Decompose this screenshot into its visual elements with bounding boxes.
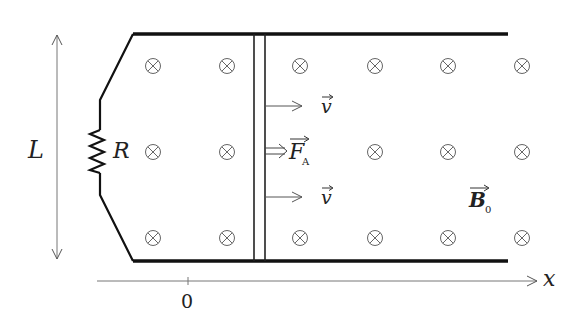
x-axis-label: x xyxy=(543,268,555,290)
magnetic-field-symbols xyxy=(146,59,530,246)
field-into-page-icon xyxy=(146,145,161,160)
resistor-label: R xyxy=(113,140,130,162)
field-into-page-icon xyxy=(368,59,383,74)
sliding-rod xyxy=(254,34,265,261)
field-into-page-icon xyxy=(220,59,235,74)
field-into-page-icon xyxy=(146,59,161,74)
field-label: B xyxy=(469,190,486,210)
diagram-canvas: L R v v F A B 0 x 0 xyxy=(0,0,585,326)
field-into-page-icon xyxy=(441,145,456,160)
field-into-page-icon xyxy=(293,59,308,74)
velocity-label-bottom: v xyxy=(321,188,332,207)
force-arrow xyxy=(265,144,287,158)
force-subscript: A xyxy=(302,157,309,167)
field-into-page-icon xyxy=(515,231,530,246)
field-into-page-icon xyxy=(293,231,308,246)
field-into-page-icon xyxy=(441,59,456,74)
field-into-page-icon xyxy=(368,145,383,160)
field-into-page-icon xyxy=(368,231,383,246)
field-subscript: 0 xyxy=(485,205,491,215)
field-into-page-icon xyxy=(515,145,530,160)
resistor-zigzag xyxy=(90,130,104,173)
field-into-page-icon xyxy=(441,231,456,246)
field-into-page-icon xyxy=(146,231,161,246)
origin-label: 0 xyxy=(181,292,193,311)
velocity-label-top: v xyxy=(321,97,332,116)
length-label: L xyxy=(28,138,44,162)
field-into-page-icon xyxy=(220,145,235,160)
x-axis xyxy=(97,277,537,285)
field-into-page-icon xyxy=(220,231,235,246)
field-into-page-icon xyxy=(515,59,530,74)
vector-accents xyxy=(290,95,489,192)
